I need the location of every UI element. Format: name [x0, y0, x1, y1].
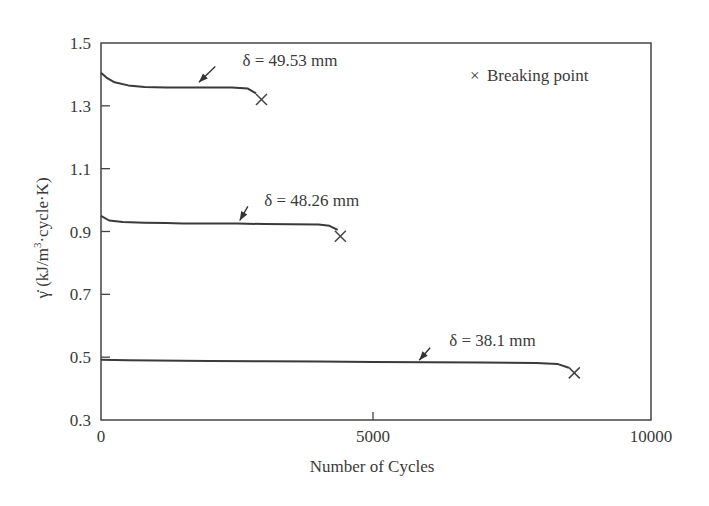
y-tick-label: 0.3 — [70, 411, 91, 430]
x-tick-label: 0 — [97, 427, 106, 446]
y-axis-units-pre: (kJ/m — [33, 248, 52, 291]
y-axis-title: γ̇ (kJ/m3·cycle·K) — [31, 177, 52, 299]
legend-label: Breaking point — [487, 66, 589, 85]
legend-marker-icon: × — [470, 66, 480, 85]
series-annotation-label: δ = 38.1 mm — [449, 331, 536, 350]
y-tick-label: 0.7 — [70, 285, 92, 304]
y-tick-label: 1.1 — [70, 160, 91, 179]
y-axis-units-post: ·cycle·K) — [33, 177, 52, 242]
y-tick-label: 1.3 — [70, 97, 91, 116]
chart-background — [0, 0, 709, 506]
series-annotation-label: δ = 48.26 mm — [264, 191, 359, 210]
x-tick-label: 5000 — [356, 427, 390, 446]
chart-canvas: 0.30.50.70.91.11.31.5 0500010000 δ = 49.… — [0, 0, 709, 506]
x-tick-label: 10000 — [630, 427, 673, 446]
y-tick-label: 1.5 — [70, 34, 91, 53]
series-annotation-label: δ = 49.53 mm — [242, 51, 337, 70]
y-tick-label: 0.5 — [70, 348, 91, 367]
x-axis-title: Number of Cycles — [310, 457, 435, 476]
legend: × Breaking point — [470, 66, 589, 85]
y-tick-label: 0.9 — [70, 223, 91, 242]
